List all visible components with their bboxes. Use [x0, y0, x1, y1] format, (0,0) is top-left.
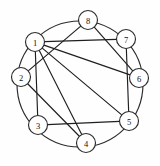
node-4[interactable]: 4 — [77, 134, 96, 153]
node-8[interactable]: 8 — [79, 11, 98, 30]
graph-canvas: 12345678 — [0, 0, 160, 166]
node-label-8: 8 — [86, 16, 90, 26]
node-label-3: 3 — [36, 121, 40, 131]
node-2[interactable]: 2 — [12, 68, 31, 87]
node-label-7: 7 — [124, 35, 128, 45]
node-label-2: 2 — [19, 73, 23, 83]
edge-1-3 — [35, 51, 37, 115]
node-5[interactable]: 5 — [120, 112, 139, 131]
graph-figure: 12345678 — [0, 0, 160, 166]
node-7[interactable]: 7 — [117, 30, 136, 49]
edge-3-5 — [47, 121, 119, 124]
node-1[interactable]: 1 — [26, 33, 45, 52]
node-label-6: 6 — [137, 74, 141, 84]
node-label-5: 5 — [127, 117, 131, 127]
node-6[interactable]: 6 — [130, 69, 149, 88]
edge-7-5 — [126, 48, 128, 111]
node-label-1: 1 — [33, 38, 37, 48]
node-3[interactable]: 3 — [29, 116, 48, 135]
